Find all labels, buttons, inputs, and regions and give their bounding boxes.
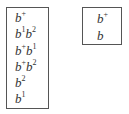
base: b: [15, 10, 22, 25]
list-item: b+: [97, 12, 108, 25]
list-item: b+: [15, 11, 26, 24]
superscript: 1: [22, 25, 26, 34]
superscript: +: [22, 42, 27, 51]
superscript: +: [104, 10, 109, 19]
base: b: [15, 26, 22, 41]
superscript: 2: [22, 74, 26, 83]
list-item: b+b1: [15, 44, 37, 57]
base: b: [15, 59, 22, 74]
right-genotype-box: b+ b: [82, 7, 122, 45]
base: b: [26, 43, 33, 58]
superscript: 2: [32, 25, 36, 34]
base: b: [26, 59, 33, 74]
base: b: [15, 75, 22, 90]
list-item: b2: [15, 76, 26, 89]
superscript: +: [22, 9, 27, 18]
list-item: b1: [15, 92, 26, 105]
superscript: +: [22, 58, 27, 67]
base: b: [15, 91, 22, 106]
base: b: [15, 43, 22, 58]
base: b: [97, 28, 104, 43]
superscript: 1: [22, 90, 26, 99]
left-genotype-box: b+ b1b2 b+b1 b+b2 b2 b1: [6, 7, 49, 109]
base: b: [97, 11, 104, 26]
list-item: b: [97, 29, 104, 42]
superscript: 2: [33, 58, 37, 67]
superscript: 1: [33, 42, 37, 51]
list-item: b1b2: [15, 27, 36, 40]
list-item: b+b2: [15, 60, 37, 73]
